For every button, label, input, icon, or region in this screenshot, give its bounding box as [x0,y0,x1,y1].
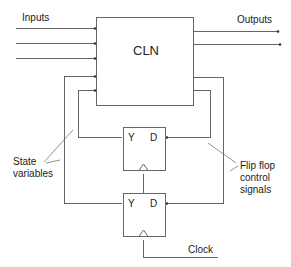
cln-box [97,18,194,106]
state-variables-line-2: variables [13,168,53,180]
ff-upper-y-label: Y [128,133,135,143]
control-signal-inner [167,91,211,138]
flip-flop-control-line-2: control [240,172,275,184]
flip-flop-control-label: Flip flop control signals [240,160,275,196]
control-pointer-1 [208,143,236,163]
control-pointer-2 [230,166,238,171]
state-feedback-outer [65,77,123,204]
sequential-circuit-diagram: Inputs Outputs CLN Y D Y D State variabl… [0,0,291,267]
outputs-label: Outputs [237,15,272,25]
control-signal-outer [167,78,224,204]
inputs-label: Inputs [22,13,49,23]
state-feedback-inner [79,91,123,138]
clock-label: Clock [188,245,213,255]
state-variables-label: State variables [13,156,53,180]
flip-flop-control-line-3: signals [240,184,275,196]
cln-label: CLN [133,44,159,57]
diagram-canvas [0,0,291,267]
clock-triangle-lower [139,230,148,237]
clock-triangle-upper [139,164,148,171]
ff-lower-d-label: D [150,199,157,209]
ff-lower-y-label: Y [128,199,135,209]
ff-upper-d-label: D [150,133,157,143]
flip-flop-control-line-1: Flip flop [240,160,275,172]
state-variables-line-1: State [13,156,53,168]
